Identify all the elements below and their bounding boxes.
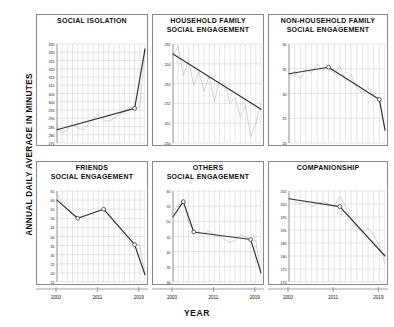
x-tick-label: 2011 [328, 295, 338, 300]
y-tick-label: 295 [49, 109, 55, 113]
y-tick-label: 40 [167, 251, 171, 255]
y-tick-label: 35 [283, 68, 287, 72]
x-tick-label: 2019 [250, 295, 261, 300]
y-tick-label: 280 [49, 134, 55, 138]
y-tick-label: 50 [51, 217, 55, 221]
series-line-observed [173, 202, 261, 273]
panel-title: COMPANIONSHIP [269, 164, 387, 173]
panel-title: SOCIAL ISOLATION [37, 17, 147, 26]
y-tick-label: 325 [49, 60, 55, 64]
series-line-observed [57, 49, 145, 133]
y-tick-label: 30 [283, 93, 287, 97]
y-tick-label: 25 [283, 117, 287, 121]
x-tick-label: 2003 [167, 295, 178, 300]
y-tick-label: 40 [51, 236, 55, 240]
series-line-piecewise-trend [289, 199, 385, 256]
series-line-piecewise-trend [289, 67, 385, 130]
y-tick-label: 190 [281, 229, 287, 233]
y-tick-label: 254 [165, 63, 171, 67]
series-line-linear-trend [173, 54, 261, 109]
panel-title: OTHERS SOCIAL ENGAGEMENT [153, 164, 263, 181]
y-tick-label: 250 [165, 142, 171, 146]
y-tick-label: 25 [51, 263, 55, 267]
series-line-piecewise-trend [57, 49, 145, 130]
y-tick-label: 251 [165, 122, 171, 126]
y-tick-label: 40 [283, 43, 287, 47]
series-line-observed [289, 64, 385, 130]
y-tick-label: 335 [49, 43, 55, 47]
y-tick-label: 195 [281, 216, 287, 220]
y-tick-label: 20 [283, 142, 287, 146]
y-tick-label: 35 [167, 266, 171, 270]
panel-social-isolation: SOCIAL ISOLATION275280285290295300305310… [36, 14, 148, 146]
panel-title: NON-HOUSEHOLD FAMILY SOCIAL ENGAGEMENT [269, 17, 387, 34]
y-tick-label: 50 [167, 220, 171, 224]
y-tick-label: 175 [281, 268, 287, 272]
knot-marker [76, 216, 80, 220]
plot-area: 275280285290295300305310315320325330335 [37, 41, 149, 147]
knot-marker [102, 207, 106, 211]
knot-marker [192, 230, 196, 234]
x-axis-svg: 200320112019 [268, 287, 388, 305]
y-tick-label: 315 [49, 76, 55, 80]
y-tick-label: 35 [51, 245, 55, 249]
y-tick-label: 180 [281, 255, 287, 259]
y-tick-label: 55 [167, 205, 171, 209]
knot-marker [249, 238, 253, 242]
y-tick-label: 290 [49, 117, 55, 121]
y-axis-label: ANNUAL DAILY AVERAGE IN MINUTES [25, 30, 34, 280]
y-tick-label: 310 [49, 84, 55, 88]
y-tick-label: 55 [51, 208, 55, 212]
knot-marker [133, 106, 137, 110]
panel-non-household-family-social-engagement: NON-HOUSEHOLD FAMILY SOCIAL ENGAGEMENT20… [268, 14, 388, 146]
plot-area: 1520253035404550556065 [37, 188, 149, 286]
x-tick-label: 2019 [134, 295, 145, 300]
series-line-piecewise-trend [57, 200, 145, 275]
y-tick-label: 305 [49, 93, 55, 97]
x-tick-label: 2003 [51, 295, 62, 300]
x-tick-label: 2011 [92, 295, 102, 300]
y-tick-label: 300 [49, 101, 55, 105]
panel-others-social-engagement: OTHERS SOCIAL ENGAGEMENT30354045505560 [152, 161, 264, 285]
panel-title: FRIENDS SOCIAL ENGAGEMENT [37, 164, 147, 181]
y-tick-label: 20 [51, 272, 55, 276]
panel-friends-social-engagement: FRIENDS SOCIAL ENGAGEMENT152025303540455… [36, 161, 148, 285]
knot-marker [133, 243, 137, 247]
y-tick-label: 205 [281, 190, 287, 194]
y-tick-label: 60 [167, 190, 171, 194]
panel-household-family-social-engagement: HOUSEHOLD FAMILY SOCIAL ENGAGEMENT250251… [152, 14, 264, 146]
y-tick-label: 252 [165, 102, 171, 106]
y-tick-label: 320 [49, 68, 55, 72]
y-tick-label: 330 [49, 51, 55, 55]
knot-marker [338, 205, 342, 209]
x-axis-svg: 200320112019 [152, 287, 264, 305]
plot-area: 30354045505560 [153, 188, 265, 286]
x-tick-label: 2003 [283, 295, 294, 300]
plot-area: 170175180185190195200205 [269, 188, 389, 286]
y-tick-label: 275 [49, 142, 55, 146]
y-tick-label: 253 [165, 83, 171, 87]
x-axis-friends-social-engagement: 200320112019 [36, 287, 148, 305]
y-tick-label: 285 [49, 126, 55, 130]
x-tick-label: 2019 [373, 295, 384, 300]
figure-root: ANNUAL DAILY AVERAGE IN MINUTES YEAR SOC… [0, 0, 394, 327]
knot-marker [377, 98, 381, 102]
y-tick-label: 45 [167, 236, 171, 240]
plot-area: 250251252253254255 [153, 41, 265, 147]
y-tick-label: 30 [51, 254, 55, 258]
panel-title: HOUSEHOLD FAMILY SOCIAL ENGAGEMENT [153, 17, 263, 34]
x-axis-companionship: 200320112019 [268, 287, 388, 305]
y-tick-label: 185 [281, 242, 287, 246]
panel-companionship: COMPANIONSHIP170175180185190195200205 [268, 161, 388, 285]
y-tick-label: 30 [167, 281, 171, 285]
y-tick-label: 45 [51, 226, 55, 230]
y-tick-label: 65 [51, 190, 55, 194]
x-axis-label: YEAR [0, 308, 394, 318]
x-axis-svg: 200320112019 [36, 287, 148, 305]
knot-marker [181, 200, 185, 204]
x-tick-label: 2011 [208, 295, 218, 300]
y-tick-label: 200 [281, 203, 287, 207]
knot-marker [327, 65, 331, 69]
y-tick-label: 60 [51, 199, 55, 203]
y-tick-label: 170 [281, 281, 287, 285]
